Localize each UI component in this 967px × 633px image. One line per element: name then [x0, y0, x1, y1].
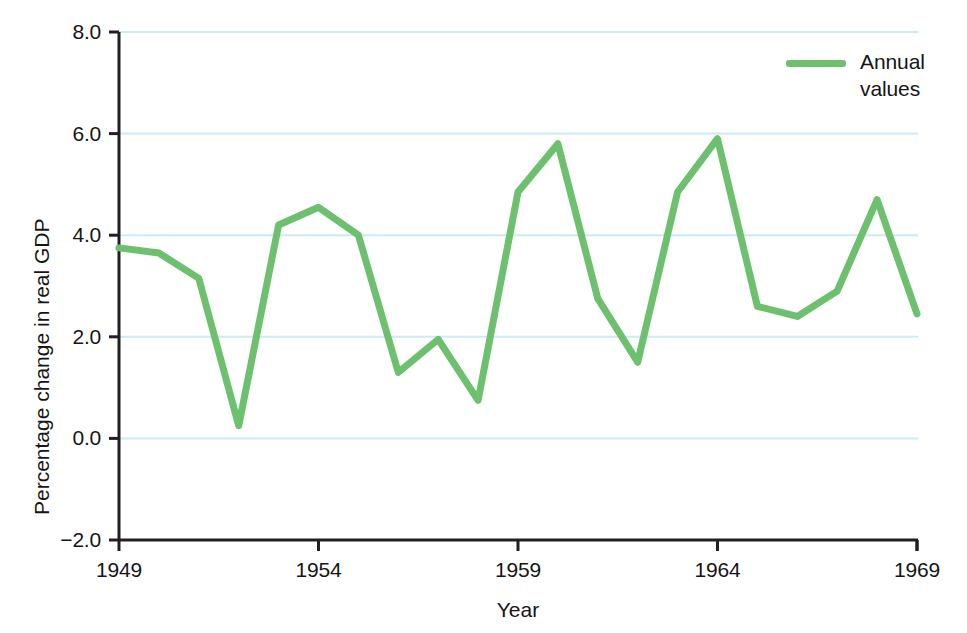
- series-line-0: [119, 139, 917, 426]
- axis-lines: [118, 32, 918, 540]
- x-axis-tick-label: 1954: [296, 558, 342, 582]
- x-axis-title: Year: [119, 598, 917, 622]
- y-axis-tick-label: −2.0: [0, 528, 101, 552]
- axis-ticks: [109, 32, 917, 551]
- x-axis-tick-label: 1969: [894, 558, 940, 582]
- y-axis-title: Percentage change in real GDP: [30, 218, 54, 515]
- data-series: [119, 139, 917, 426]
- x-axis-tick-label: 1959: [495, 558, 541, 582]
- legend: Annual values: [786, 48, 925, 103]
- x-axis-tick-label: 1949: [96, 558, 142, 582]
- x-axis-tick-label: 1964: [695, 558, 741, 582]
- y-axis-tick-label: 8.0: [0, 20, 101, 44]
- gdp-line-chart: 8.06.04.02.00.0−2.0 19491954195919641969…: [0, 0, 967, 633]
- legend-item-label: Annual values: [860, 48, 925, 103]
- y-axis-tick-label: 6.0: [0, 122, 101, 146]
- legend-color-swatch: [786, 60, 846, 67]
